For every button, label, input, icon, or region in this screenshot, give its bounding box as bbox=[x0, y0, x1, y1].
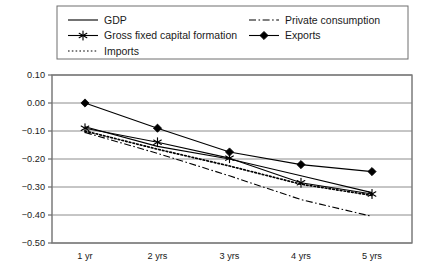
y-tick-label: −0.50 bbox=[22, 238, 45, 248]
x-tick-label: 2 yrs bbox=[148, 251, 168, 261]
chart-container: GDPGross fixed capital formationImportsP… bbox=[0, 0, 424, 278]
x-tick-label: 1 yr bbox=[77, 251, 92, 261]
economic-impact-line-chart: GDPGross fixed capital formationImportsP… bbox=[0, 0, 424, 278]
y-tick-label: −0.30 bbox=[22, 182, 45, 192]
legend-label: Gross fixed capital formation bbox=[104, 29, 237, 41]
x-tick-label: 3 yrs bbox=[220, 251, 240, 261]
x-tick-label: 5 yrs bbox=[362, 251, 382, 261]
legend-label: Private consumption bbox=[285, 14, 380, 26]
x-tick-labels: 1 yr2 yrs3 yrs4 yrs5 yrs bbox=[77, 251, 382, 261]
y-tick-label: −0.10 bbox=[22, 126, 45, 136]
legend-label: GDP bbox=[104, 14, 127, 26]
legend-label: Exports bbox=[285, 29, 321, 41]
y-tick-label: −0.20 bbox=[22, 154, 45, 164]
y-tick-label: 0.00 bbox=[27, 98, 45, 108]
y-tick-label: 0.10 bbox=[27, 70, 45, 80]
y-tick-label: −0.40 bbox=[22, 210, 45, 220]
x-tick-label: 4 yrs bbox=[291, 251, 311, 261]
legend-label: Imports bbox=[104, 45, 139, 57]
